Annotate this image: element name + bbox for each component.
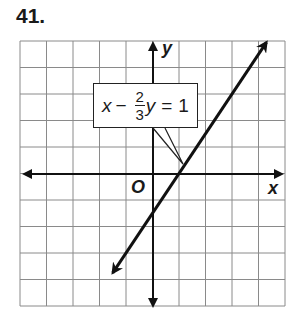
equation-y: y xyxy=(146,95,156,117)
equation-equals: = xyxy=(161,95,172,117)
equation-callout: x − 2 3 y = 1 xyxy=(93,83,198,128)
origin-label: O xyxy=(131,177,145,198)
x-axis-label: x xyxy=(268,178,278,199)
equation-rhs: 1 xyxy=(178,95,189,117)
equation-fraction: 2 3 xyxy=(135,89,145,122)
equation-x: x xyxy=(102,95,112,117)
fraction-numerator: 2 xyxy=(136,89,144,104)
graphed-line xyxy=(113,42,267,273)
fraction-denominator: 3 xyxy=(136,107,144,122)
coordinate-graph xyxy=(0,0,301,320)
equation-minus: − xyxy=(116,95,127,117)
y-axis-label: y xyxy=(162,38,172,59)
